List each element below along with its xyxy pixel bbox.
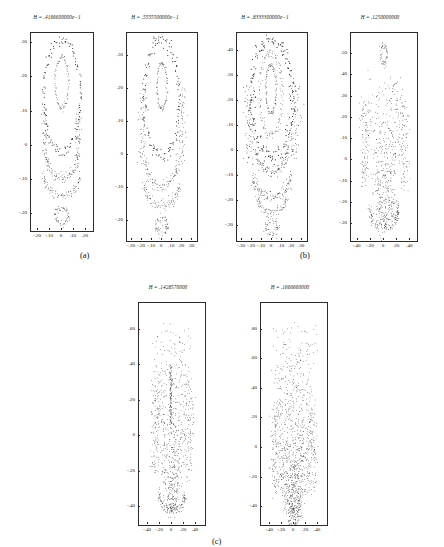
- panel-title-6: H = .1666660000: [240, 284, 340, 290]
- y-tick-mark: [236, 125, 238, 126]
- x-tick-mark: [271, 238, 272, 240]
- x-tick-mark: [85, 228, 86, 230]
- y-tick-label: -.20: [108, 217, 123, 222]
- y-tick-mark: [260, 329, 262, 330]
- x-tick-mark: [131, 238, 132, 240]
- y-tick-mark: [30, 179, 32, 180]
- plot-panel-6: H = .1666660000.80.60.40.200-.20-.40-.40…: [240, 284, 340, 534]
- y-tick-mark: [138, 400, 140, 401]
- y-tick-mark: [260, 388, 262, 389]
- y-tick-mark: [236, 225, 238, 226]
- x-tick-mark: [357, 238, 358, 240]
- y-tick-label: .20: [118, 397, 135, 402]
- y-tick-label: 0: [118, 432, 135, 437]
- figure-root: H = .4166600000e−1.30.20.100-.10-.20-.20…: [0, 0, 444, 547]
- x-tick-mark: [317, 522, 318, 524]
- y-tick-mark: [350, 53, 352, 54]
- x-tick-label: .30: [181, 243, 201, 248]
- y-tick-label: -.20: [218, 197, 233, 202]
- y-tick-label: .20: [16, 73, 27, 78]
- plot-panel-4: H = .1250000000.50.40.30.20.100-.10-.20-…: [330, 14, 430, 246]
- x-tick-mark: [291, 238, 292, 240]
- x-tick-mark: [141, 238, 142, 240]
- y-tick-label: 0: [240, 444, 257, 449]
- x-tick-label: .40: [185, 527, 205, 532]
- x-tick-mark: [293, 522, 294, 524]
- y-tick-label: -.10: [108, 184, 123, 189]
- y-tick-label: .30: [218, 72, 233, 77]
- panel-title-1: H = .4166600000e−1: [16, 14, 98, 20]
- y-tick-mark: [138, 506, 140, 507]
- y-tick-label: -.20: [16, 210, 27, 215]
- y-tick-mark: [30, 111, 32, 112]
- y-tick-mark: [126, 88, 128, 89]
- y-tick-mark: [260, 477, 262, 478]
- y-tick-label: .20: [108, 85, 123, 90]
- y-tick-mark: [260, 358, 262, 359]
- y-tick-mark: [138, 435, 140, 436]
- y-tick-mark: [350, 223, 352, 224]
- y-tick-label: .30: [16, 39, 27, 44]
- x-tick-mark: [191, 238, 192, 240]
- y-tick-label: -.10: [218, 172, 233, 177]
- y-tick-mark: [350, 181, 352, 182]
- group-label-c: (c): [212, 536, 221, 546]
- plot-panel-1: H = .4166600000e−1.30.20.100-.10-.20-.20…: [16, 14, 98, 246]
- x-tick-mark: [159, 522, 160, 524]
- y-tick-label: -.30: [330, 220, 347, 225]
- panel-title-2: H = .5555500000e−1: [108, 14, 202, 20]
- x-tick-mark: [183, 522, 184, 524]
- x-tick-mark: [281, 238, 282, 240]
- y-tick-mark: [350, 117, 352, 118]
- y-tick-label: .20: [240, 414, 257, 419]
- y-tick-label: .20: [218, 97, 233, 102]
- y-tick-mark: [236, 175, 238, 176]
- x-tick-mark: [383, 238, 384, 240]
- group-label-b: (b): [300, 250, 310, 260]
- x-tick-mark: [305, 522, 306, 524]
- x-tick-mark: [61, 228, 62, 230]
- x-tick-label: .30: [291, 243, 311, 248]
- plot-panel-5: H = .1428570000.60.40.200-.20-.40-.40-.2…: [118, 284, 218, 534]
- y-tick-mark: [138, 471, 140, 472]
- y-tick-mark: [350, 74, 352, 75]
- y-tick-label: .10: [108, 118, 123, 123]
- plot-area-6: [260, 302, 328, 526]
- x-tick-mark: [301, 238, 302, 240]
- x-tick-mark: [251, 238, 252, 240]
- y-tick-mark: [236, 200, 238, 201]
- y-tick-label: .20: [330, 114, 347, 119]
- y-tick-label: -.40: [118, 503, 135, 508]
- plot-area-1: [30, 32, 94, 232]
- y-tick-label: .30: [330, 93, 347, 98]
- y-tick-label: .40: [330, 71, 347, 76]
- x-tick-mark: [147, 522, 148, 524]
- x-tick-mark: [171, 522, 172, 524]
- y-tick-mark: [350, 159, 352, 160]
- x-tick-label: .20: [75, 233, 95, 238]
- y-tick-label: -.20: [118, 468, 135, 473]
- y-tick-label: .40: [218, 47, 233, 52]
- plot-area-2: [126, 32, 198, 242]
- y-tick-mark: [126, 187, 128, 188]
- plot-area-5: [138, 302, 206, 526]
- y-tick-mark: [260, 417, 262, 418]
- y-tick-label: -.20: [330, 199, 347, 204]
- y-tick-label: 0: [108, 151, 123, 156]
- plot-area-4: [350, 32, 418, 242]
- scatter-canvas-3: [237, 33, 307, 241]
- y-tick-mark: [30, 76, 32, 77]
- y-tick-mark: [236, 75, 238, 76]
- y-tick-label: .60: [118, 326, 135, 331]
- y-tick-label: .60: [240, 355, 257, 360]
- y-tick-mark: [236, 50, 238, 51]
- y-tick-mark: [126, 121, 128, 122]
- group-label-a: (a): [80, 250, 89, 260]
- y-tick-label: .10: [16, 108, 27, 113]
- plot-panel-3: H = .8333300000e−1.40.30.20.100-.10-.20-…: [218, 14, 312, 246]
- panel-title-5: H = .1428570000: [118, 284, 218, 290]
- y-tick-label: .10: [330, 135, 347, 140]
- y-tick-mark: [260, 506, 262, 507]
- scatter-canvas-6: [261, 303, 327, 525]
- y-tick-mark: [126, 220, 128, 221]
